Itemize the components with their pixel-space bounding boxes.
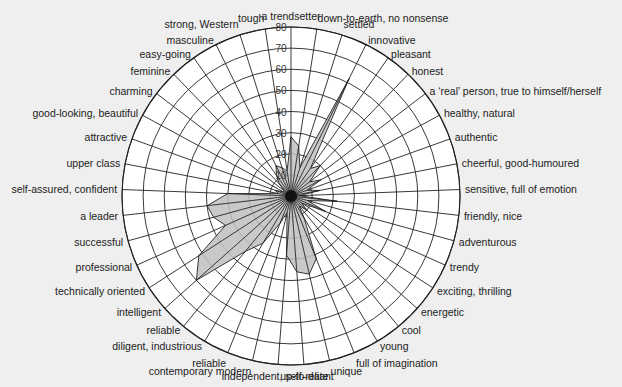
category-label: unique xyxy=(331,365,363,377)
category-label: a trendsetter xyxy=(262,10,321,22)
category-label: trendy xyxy=(450,261,480,273)
category-label: easy-going xyxy=(140,48,192,60)
radar-chart: 1020304050607080 a trendsetterdown-to-ea… xyxy=(0,0,622,387)
category-label: good-looking, beautiful xyxy=(32,107,138,119)
category-label: innovative xyxy=(368,34,415,46)
category-label: reliable xyxy=(146,324,180,336)
category-label: reliable xyxy=(192,357,226,369)
category-label: successful xyxy=(74,236,123,248)
category-label: self-assured, confident xyxy=(11,183,117,195)
category-label: feminine xyxy=(131,65,171,77)
category-label: settled xyxy=(344,18,375,30)
category-label: intelligent xyxy=(117,306,161,318)
category-label: authentic xyxy=(455,131,498,143)
category-label: attractive xyxy=(85,131,128,143)
tick-label: 30 xyxy=(275,128,287,139)
category-label: cool xyxy=(402,324,421,336)
category-label: diligent, industrious xyxy=(112,340,202,352)
category-label: healthy, natural xyxy=(444,107,515,119)
category-label: sensitive, full of emotion xyxy=(465,183,577,195)
tick-label: 50 xyxy=(275,85,287,96)
category-label: pleasant xyxy=(391,48,431,60)
category-label: full of imagination xyxy=(356,357,438,369)
tick-label: 60 xyxy=(275,64,287,75)
category-label: strong, Western xyxy=(165,18,239,30)
category-label: cheerful, good-humoured xyxy=(462,157,579,169)
category-label: a ‘real’ person, true to himself/herself xyxy=(429,85,601,97)
category-label: a leader xyxy=(80,210,118,222)
category-label: adventurous xyxy=(459,236,517,248)
category-label: friendly, nice xyxy=(464,210,522,222)
category-label: down-to-earth, no nonsense xyxy=(318,12,449,24)
tick-label: 70 xyxy=(275,43,287,54)
category-label: energetic xyxy=(421,306,464,318)
category-label: exciting, thrilling xyxy=(437,285,512,297)
category-label: upper class xyxy=(66,157,120,169)
tick-label: 40 xyxy=(275,107,287,118)
center-hub xyxy=(285,190,297,202)
category-label: technically oriented xyxy=(55,285,145,297)
category-label: masculine xyxy=(167,34,214,46)
category-label: honest xyxy=(412,65,444,77)
category-label: tough xyxy=(238,12,264,24)
tick-label: 20 xyxy=(275,149,287,160)
tick-label: 80 xyxy=(275,22,287,33)
category-label: charming xyxy=(109,85,152,97)
category-label: young xyxy=(380,340,409,352)
tick-label: 10 xyxy=(275,170,287,181)
category-label: professional xyxy=(76,261,133,273)
